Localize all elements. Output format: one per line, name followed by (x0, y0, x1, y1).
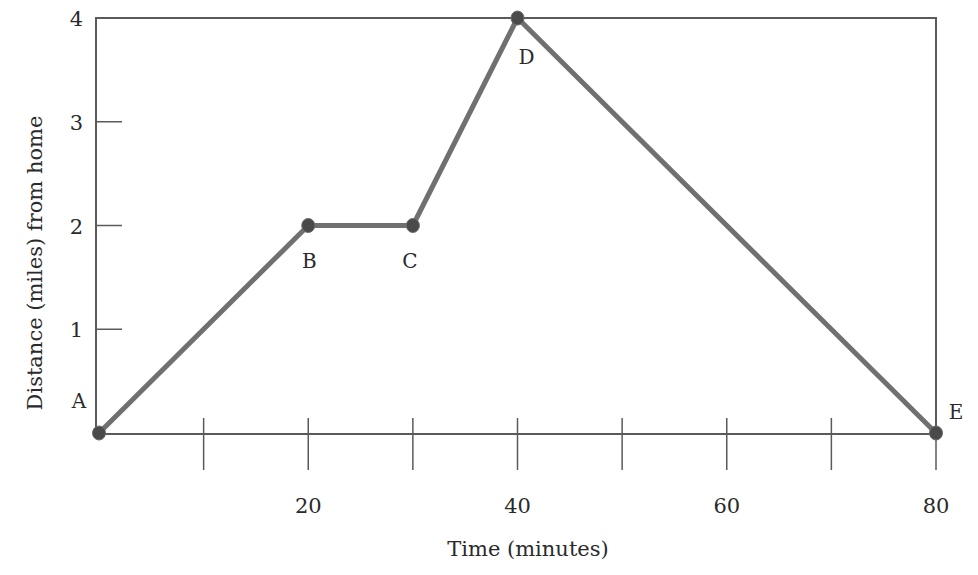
plot-frame (96, 18, 936, 434)
y-tick-label: 3 (70, 111, 83, 135)
point-label-a: A (71, 389, 87, 413)
y-axis-tick-labels: 1234 (70, 7, 83, 342)
point-label-c: C (402, 249, 417, 273)
point-label-d: D (518, 45, 534, 69)
x-tick-label: 20 (295, 494, 322, 518)
x-axis-tick-labels: 20406080 (295, 494, 949, 518)
y-axis-ticks (96, 122, 122, 330)
point-marker-b (302, 219, 315, 233)
point-labels: ABCDE (71, 45, 964, 424)
plot-border (96, 18, 936, 434)
x-tick-label: 80 (923, 494, 950, 518)
point-label-e: E (949, 400, 964, 424)
y-axis-title: Distance (miles) from home (23, 116, 47, 411)
x-axis-title: Time (minutes) (447, 537, 608, 561)
y-tick-label: 1 (70, 318, 83, 342)
x-tick-label: 60 (713, 494, 740, 518)
trip-line (99, 18, 936, 433)
point-marker-d (511, 11, 524, 25)
y-tick-label: 2 (70, 215, 83, 239)
x-tick-label: 40 (504, 494, 531, 518)
point-marker-a (93, 426, 106, 440)
point-marker-e (930, 426, 943, 440)
x-axis-ticks (204, 418, 936, 470)
point-marker-c (406, 219, 419, 233)
y-tick-label: 4 (70, 7, 83, 31)
point-label-b: B (302, 249, 317, 273)
point-markers (93, 11, 943, 440)
distance-time-chart: 20406080 1234 ABCDE Time (minutes) Dista… (0, 0, 978, 575)
